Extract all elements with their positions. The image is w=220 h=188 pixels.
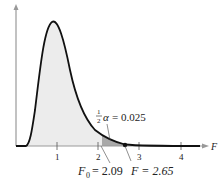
f0-annotation: F 0 = 2.09 <box>77 164 123 180</box>
tick-label-2: 2 <box>96 152 101 162</box>
alpha-symbol: α <box>103 111 109 123</box>
tick-label-4: 4 <box>179 152 184 162</box>
tick-label-1: 1 <box>55 152 60 162</box>
x-axis-label: F <box>210 141 218 152</box>
f0-leader-line <box>101 146 110 163</box>
f-leader-line <box>125 146 131 161</box>
half-numerator: 1 <box>97 108 101 116</box>
f0-value: = 2.09 <box>92 164 123 178</box>
x-axis-arrow-icon <box>202 144 209 149</box>
alpha-value: = 0.025 <box>112 111 146 123</box>
f-annotation: F = 2.65 <box>130 164 173 178</box>
f0-subscript: 0 <box>86 171 90 180</box>
tick-label-3: 3 <box>137 152 142 162</box>
half-denominator: 2 <box>97 117 101 125</box>
y-axis-arrow-icon <box>14 4 19 10</box>
light-shaded-area <box>16 22 102 146</box>
f0-symbol: F <box>77 164 86 178</box>
half-alpha-annotation: 1 2 α = 0.025 <box>96 108 146 125</box>
f-distribution-chart: F 1 2 3 4 1 2 α = 0.025 F 0 = 2.09 F = 2… <box>0 0 220 188</box>
